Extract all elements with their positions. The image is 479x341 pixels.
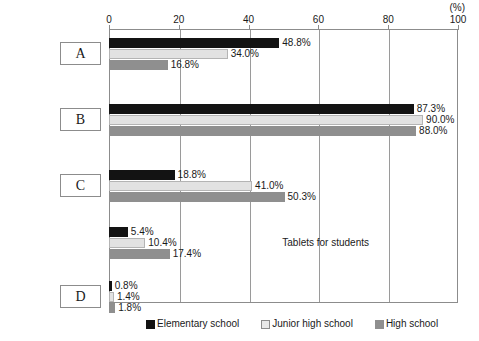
legend-item-3: High school xyxy=(375,318,438,330)
bar-value-label: 48.8% xyxy=(282,37,310,49)
bar-5-2 xyxy=(109,292,114,302)
bar-value-label: 16.8% xyxy=(171,59,199,71)
bar-group-2: 87.3%90.0%88.0% xyxy=(109,104,458,137)
bar-row: 34.0% xyxy=(109,49,458,59)
bar-value-label: 18.8% xyxy=(178,169,206,181)
legend-swatch-icon xyxy=(146,320,155,329)
category-label-box-A: A xyxy=(60,42,101,65)
x-tick-label-20: 20 xyxy=(173,14,184,25)
bar-1-3 xyxy=(109,60,168,70)
bar-group-4: 5.4%10.4%17.4% xyxy=(109,227,458,260)
x-tick-label-40: 40 xyxy=(243,14,254,25)
bar-3-1 xyxy=(109,170,175,180)
bar-2-1 xyxy=(109,104,414,114)
legend-item-2: Junior high school xyxy=(261,318,353,330)
bar-value-label: 88.0% xyxy=(419,125,447,137)
x-tick-label-60: 60 xyxy=(313,14,324,25)
bar-row: 18.8% xyxy=(109,170,458,180)
x-tick-label-0: 0 xyxy=(106,14,112,25)
bar-group-5: 0.8%1.4%1.8% xyxy=(109,281,458,314)
legend-item-1: Elementary school xyxy=(146,318,239,330)
legend-swatch-icon xyxy=(375,320,384,329)
bar-row: 90.0% xyxy=(109,115,458,125)
bar-row: 50.3% xyxy=(109,192,458,202)
bar-row: 87.3% xyxy=(109,104,458,114)
bar-row: 10.4% xyxy=(109,238,458,248)
bar-3-2 xyxy=(109,181,252,191)
bar-3-3 xyxy=(109,192,285,202)
bar-1-2 xyxy=(109,49,228,59)
bar-row: 41.0% xyxy=(109,181,458,191)
bar-value-label: 17.4% xyxy=(173,248,201,260)
legend-label: High school xyxy=(386,318,438,330)
bar-value-label: 50.3% xyxy=(288,191,316,203)
category-label-box-B: B xyxy=(60,108,101,131)
bar-4-1 xyxy=(109,227,128,237)
bar-group-1: 48.8%34.0%16.8% xyxy=(109,38,458,71)
chart-legend: Elementary schoolJunior high schoolHigh … xyxy=(146,318,460,330)
legend-label: Elementary school xyxy=(157,318,239,330)
bar-1-1 xyxy=(109,38,279,48)
bar-row: 16.8% xyxy=(109,60,458,70)
bar-4-3 xyxy=(109,249,170,259)
x-tickmark-100 xyxy=(458,25,459,30)
category-label-box-D: D xyxy=(60,285,101,308)
bar-value-label: 34.0% xyxy=(231,48,259,60)
bar-row: 17.4% xyxy=(109,249,458,259)
axis-unit-label: (%) xyxy=(449,2,465,13)
bar-row: 88.0% xyxy=(109,126,458,136)
bars-layer: 48.8%34.0%16.8%87.3%90.0%88.0%18.8%41.0%… xyxy=(109,29,458,303)
bar-4-2 xyxy=(109,238,145,248)
legend-label: Junior high school xyxy=(272,318,353,330)
bar-chart: (%) 020406080100 ABCTablets for students… xyxy=(0,0,479,341)
bar-row: 1.8% xyxy=(109,303,458,313)
bar-2-2 xyxy=(109,115,423,125)
bar-5-1 xyxy=(109,281,112,291)
x-tick-label-80: 80 xyxy=(383,14,394,25)
x-tick-label-100: 100 xyxy=(450,14,467,25)
bar-value-label: 1.8% xyxy=(118,302,141,314)
legend-swatch-icon xyxy=(261,320,270,329)
bar-5-3 xyxy=(109,303,115,313)
bar-2-3 xyxy=(109,126,416,136)
bar-value-label: 41.0% xyxy=(255,180,283,192)
bar-row: 5.4% xyxy=(109,227,458,237)
bar-row: 48.8% xyxy=(109,38,458,48)
bar-row: 1.4% xyxy=(109,292,458,302)
category-label-box-C: C xyxy=(60,174,101,197)
bar-group-3: 18.8%41.0%50.3% xyxy=(109,170,458,203)
bar-row: 0.8% xyxy=(109,281,458,291)
